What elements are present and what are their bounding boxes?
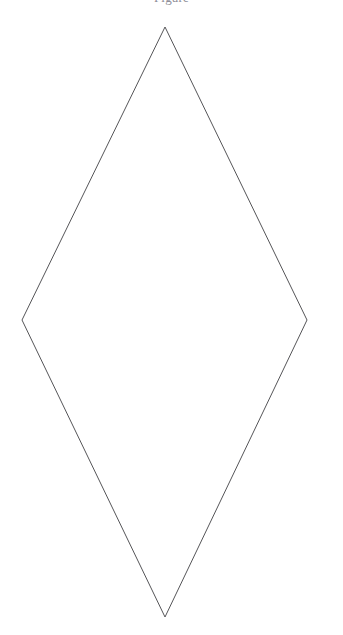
figure-canvas: Figure	[0, 0, 343, 635]
rhombus-diagram	[0, 0, 343, 635]
rhombus-shape	[22, 27, 307, 617]
